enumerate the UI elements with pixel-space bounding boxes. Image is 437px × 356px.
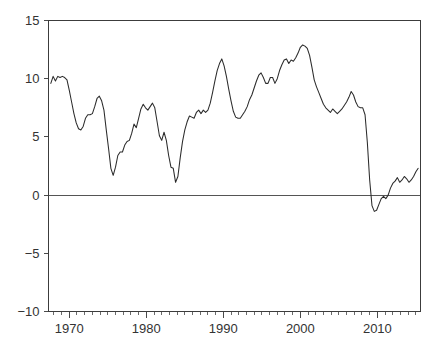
x-tick-label: 2010 [363, 321, 392, 336]
chart-background [0, 0, 437, 356]
line-chart: 151050−5−10 19701980199020002010 [0, 0, 437, 356]
x-tick-label: 1980 [132, 321, 161, 336]
x-tick-label: 1970 [55, 321, 84, 336]
y-tick-label: 15 [25, 13, 39, 28]
y-tick-label: 0 [32, 188, 39, 203]
x-tick-label: 2000 [286, 321, 315, 336]
y-tick-label: −10 [17, 304, 39, 319]
chart-container: 151050−5−10 19701980199020002010 [0, 0, 437, 356]
y-tick-label: −5 [25, 246, 40, 261]
y-tick-label: 5 [32, 129, 39, 144]
y-tick-label: 10 [25, 71, 39, 86]
x-tick-label: 1990 [209, 321, 238, 336]
